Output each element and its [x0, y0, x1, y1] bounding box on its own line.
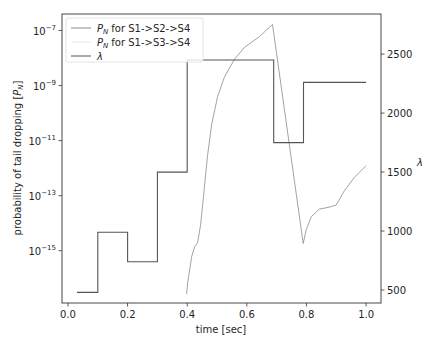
y-tick-label: 10−15 — [28, 244, 56, 257]
y-tick-label: 10−13 — [28, 189, 56, 202]
legend-label-lambda: λ — [96, 51, 103, 62]
y-right-tick-label: 2500 — [387, 49, 412, 60]
y-right-tick-label: 1000 — [387, 226, 412, 237]
x-axis-label: time [sec] — [196, 324, 247, 335]
series-line-0 — [187, 25, 367, 294]
x-tick-label: 0.6 — [239, 309, 255, 320]
x-tick-label: 1.0 — [358, 309, 374, 320]
legend: PNfor S1->S2->S4 PNfor S1->S3->S4 λ — [66, 18, 203, 62]
y-tick-label: 10−7 — [33, 24, 56, 37]
series-line-2 — [77, 60, 366, 292]
y-axis-right: 5001000150020002500 — [381, 49, 412, 296]
y-right-tick-label: 2000 — [387, 108, 412, 119]
y-tick-label: 10−11 — [28, 134, 56, 147]
y-axis-right-label: λ — [416, 157, 423, 168]
y-axis-left: 10−710−910−1110−1310−15 — [28, 24, 62, 257]
x-axis: 0.00.20.40.60.81.0 — [60, 303, 374, 320]
y-right-tick-label: 1500 — [387, 167, 412, 178]
y-axis-label: probability of tail dropping [PN] — [12, 80, 25, 235]
x-tick-label: 0.8 — [299, 309, 315, 320]
y-right-tick-label: 500 — [387, 285, 406, 296]
y-tick-label: 10−9 — [33, 79, 56, 92]
x-tick-label: 0.2 — [120, 309, 136, 320]
x-tick-label: 0.0 — [60, 309, 76, 320]
chart: 0.00.20.40.60.81.0 10−710−910−1110−1310−… — [0, 0, 431, 349]
x-tick-label: 0.4 — [179, 309, 195, 320]
series-layer — [77, 25, 366, 294]
